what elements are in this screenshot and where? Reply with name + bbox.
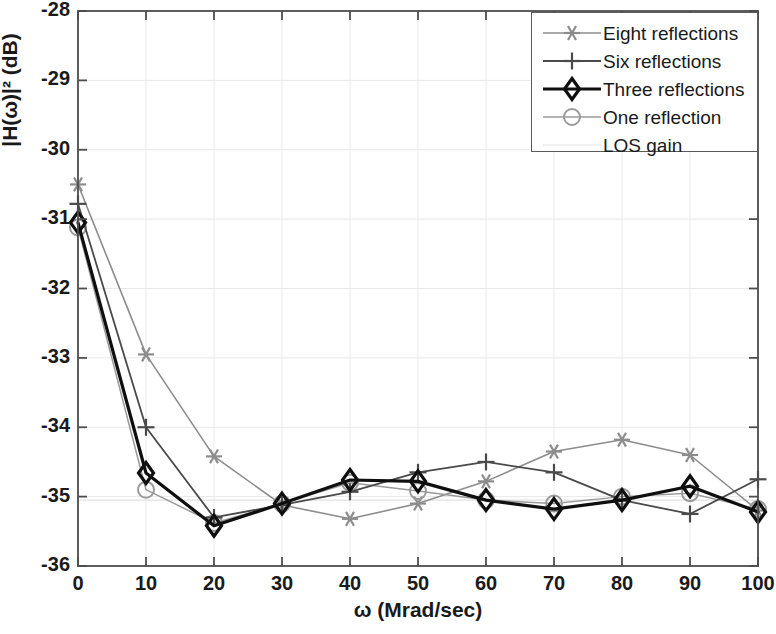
x-tick-label: 60	[456, 572, 516, 595]
x-tick-label: 80	[592, 572, 652, 595]
x-tick-label: 0	[48, 572, 108, 595]
x-tick-label: 70	[524, 572, 584, 595]
legend-item: Six reflections	[532, 47, 757, 75]
data-point-marker	[682, 505, 699, 522]
data-point-marker	[546, 464, 563, 481]
legend-item: One reflection	[532, 103, 757, 131]
legend-item-label: One reflection	[603, 108, 721, 127]
y-tick-label: -32	[8, 276, 70, 299]
x-tick-label: 90	[660, 572, 720, 595]
legend-item-label: Eight reflections	[603, 24, 738, 43]
chart-legend: Eight reflectionsSix reflectionsThree re…	[531, 12, 758, 152]
legend-item: LOS gain	[532, 131, 757, 159]
y-tick-label: -29	[8, 67, 70, 90]
data-point-marker	[138, 419, 155, 436]
chart-figure: |H(ω)|² (dB) ω (Mrad/sec) -28-29-30-31-3…	[0, 0, 776, 634]
legend-item: Three reflections	[532, 75, 757, 103]
x-tick-label: 30	[252, 572, 312, 595]
legend-line-sample	[541, 75, 603, 103]
legend-item: Eight reflections	[532, 19, 757, 47]
legend-line-sample	[541, 103, 603, 131]
y-tick-label: -28	[8, 0, 70, 21]
data-point-marker	[564, 53, 581, 70]
x-axis-label-text: ω (Mrad/sec)	[354, 598, 483, 621]
y-tick-label: -34	[8, 414, 70, 437]
y-tick-label: -30	[8, 137, 70, 160]
legend-item-label: Three reflections	[603, 80, 745, 99]
y-tick-label: -35	[8, 484, 70, 507]
x-axis-label: ω (Mrad/sec)	[78, 598, 758, 622]
y-tick-label: -31	[8, 206, 70, 229]
data-point-marker	[564, 26, 580, 40]
x-tick-label: 40	[320, 572, 380, 595]
legend-line-sample	[541, 131, 603, 159]
y-tick-label: -33	[8, 345, 70, 368]
x-tick-label: 20	[184, 572, 244, 595]
data-point-marker	[478, 453, 495, 470]
x-tick-label: 100	[728, 572, 776, 595]
y-axis-label: |H(ω)|² (dB)	[0, 0, 22, 210]
legend-line-sample	[541, 19, 603, 47]
legend-item-label: LOS gain	[603, 136, 682, 155]
legend-item-label: Six reflections	[603, 52, 721, 71]
legend-line-sample	[541, 47, 603, 75]
x-tick-label: 10	[116, 572, 176, 595]
x-tick-label: 50	[388, 572, 448, 595]
